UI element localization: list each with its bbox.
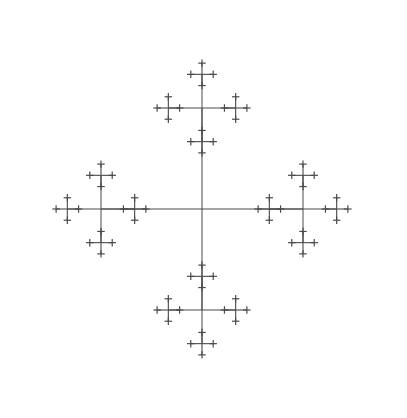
cross-fractal-diagram <box>0 0 407 418</box>
figure-canvas <box>0 0 407 418</box>
